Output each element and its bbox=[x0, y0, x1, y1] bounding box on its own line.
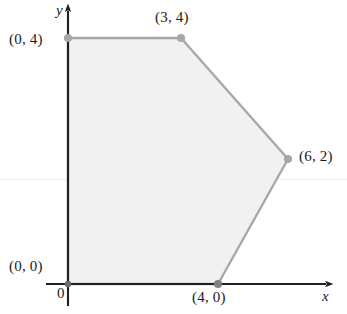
shaded-region bbox=[68, 38, 288, 284]
vertex-dot-0-4 bbox=[64, 34, 72, 42]
origin-label: 0 bbox=[57, 285, 65, 302]
vertex-label-0-4: (0, 4) bbox=[9, 31, 43, 48]
vertex-dot-4-0 bbox=[214, 280, 222, 288]
vertex-dot-0-0 bbox=[65, 281, 71, 287]
y-axis-label: y bbox=[56, 2, 63, 19]
vertex-dot-3-4 bbox=[177, 34, 185, 42]
vertex-label-3-4: (3, 4) bbox=[155, 9, 189, 26]
vertex-dot-6-2 bbox=[284, 155, 292, 163]
vertex-label-4-0: (4, 0) bbox=[192, 289, 226, 306]
vertex-label-6-2: (6, 2) bbox=[299, 148, 333, 165]
vertex-label-0-0: (0, 0) bbox=[9, 258, 43, 275]
x-axis-label: x bbox=[322, 288, 329, 305]
figure-canvas: (0, 4) (3, 4) (6, 2) (4, 0) (0, 0) x y 0 bbox=[0, 0, 347, 314]
coordinate-plane-svg bbox=[0, 0, 347, 314]
